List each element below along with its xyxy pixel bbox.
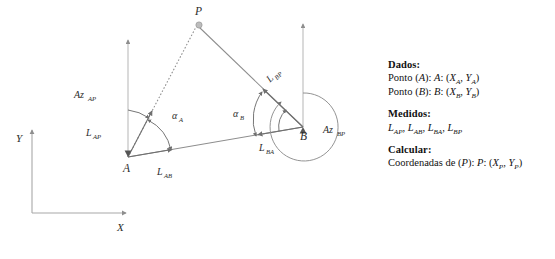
dados-heading: Dados:: [388, 58, 553, 71]
label-alpha-b-symbol: α: [233, 108, 239, 119]
medidos-item-2-subscript: BA: [433, 128, 442, 136]
dados-b-prefix: Ponto (: [388, 86, 419, 97]
medidos-item-3-subscript: BP: [453, 128, 462, 136]
dados-a-open: : (: [441, 72, 450, 83]
medidos-heading: Medidos:: [388, 107, 553, 120]
label-l-bp-subscript: BP: [273, 70, 284, 81]
point-label-b: B: [300, 130, 307, 142]
global-axes: Y X: [16, 130, 126, 233]
label-l-ba-symbol: L: [258, 142, 265, 153]
label-l-ba-subscript: BA: [266, 148, 275, 155]
label-l-ab-subscript: AB: [163, 172, 172, 179]
problem-statement-panel: Dados: Ponto (A): A: (XA, YA) Ponto (B):…: [388, 58, 553, 170]
point-marker-a: [125, 151, 132, 158]
ray-a-to-b: [128, 150, 172, 158]
calcular-mid: ):: [468, 157, 477, 168]
dados-a-mid: ):: [425, 72, 434, 83]
label-l-ap-subscript: AP: [92, 133, 101, 140]
ray-b-to-a: [258, 127, 303, 135]
dados-b-close: ): [476, 86, 480, 97]
figure-page: Y X P A: [0, 0, 555, 259]
dados-line-a: Ponto (A): A: (XA, YA): [388, 71, 553, 85]
y-axis-label: Y: [16, 132, 24, 144]
label-l-ab-symbol: L: [156, 166, 163, 177]
medidos-item-0-subscript: AP: [394, 128, 403, 136]
calcular-prefix: Coordenadas de (: [388, 157, 461, 168]
calcular-heading: Calcular:: [388, 143, 553, 156]
label-l-bp: L BP: [263, 66, 284, 87]
label-az-ap-symbol: Az: [73, 89, 84, 100]
azimuth-arc-ap: [128, 110, 149, 118]
label-alpha-a-subscript: A: [178, 116, 184, 123]
point-label-a: A: [122, 162, 131, 174]
label-az-bp-symbol: Az: [322, 124, 333, 135]
dados-b-open: : (: [441, 86, 450, 97]
point-marker-p: [196, 22, 202, 28]
calcular-line: Coordenadas de (P): P: (XP, YP): [388, 156, 553, 170]
label-az-ap-subscript: AP: [87, 95, 96, 102]
calcular-close: ): [519, 157, 523, 168]
label-l-ap: L AP: [85, 127, 101, 140]
medidos-item-1-subscript: AB: [414, 128, 423, 136]
survey-intersection-diagram: Y X P A: [0, 0, 370, 259]
angle-arc-b-inner: [279, 110, 286, 131]
label-az-bp: Az BP: [322, 124, 345, 137]
x-axis-label: X: [116, 221, 125, 233]
label-l-ba: L BA: [258, 142, 275, 155]
medidos-list: LAP, LAB, LBA, LBP: [388, 121, 553, 135]
dados-line-b: Ponto (B): B: (XB, YB): [388, 85, 553, 99]
label-az-ap: Az AP: [73, 89, 96, 102]
dados-a-close: ): [476, 72, 480, 83]
label-alpha-b-subscript: B: [240, 114, 244, 121]
label-alpha-b: α B: [233, 108, 244, 121]
dados-a-prefix: Ponto (: [388, 72, 419, 83]
label-l-ap-symbol: L: [85, 127, 92, 138]
point-label-p: P: [194, 5, 202, 17]
label-alpha-a: α A: [172, 110, 184, 123]
angle-arc-alpha-a: [148, 120, 171, 150]
label-az-bp-subscript: BP: [337, 130, 345, 137]
ray-b-to-p: [263, 89, 303, 127]
label-alpha-a-symbol: α: [172, 110, 178, 121]
dados-b-mid: ):: [425, 86, 434, 97]
angle-arc-alpha-b: [253, 92, 262, 136]
label-l-ab: L AB: [156, 166, 172, 179]
